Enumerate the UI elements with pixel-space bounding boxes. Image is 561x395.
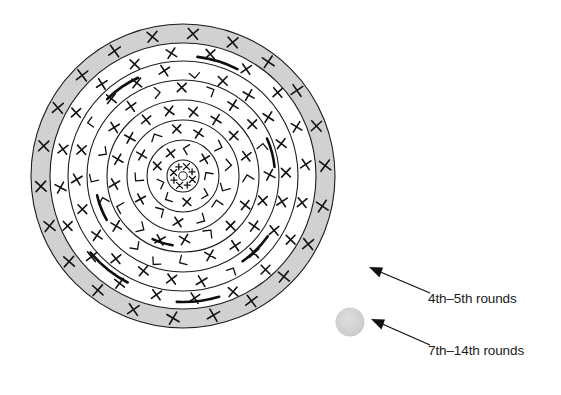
legend: 4th–5th rounds 7th–14th rounds <box>336 267 525 358</box>
x-mark <box>263 112 273 122</box>
x-mark <box>258 196 267 205</box>
x-mark <box>183 198 191 206</box>
corner-mark <box>154 208 164 218</box>
x-mark <box>249 221 259 231</box>
x-mark <box>111 254 121 264</box>
x-mark <box>243 90 254 101</box>
x-mark <box>291 122 302 133</box>
corner-mark <box>135 172 144 181</box>
x-mark <box>194 129 203 138</box>
legend-label-4th-5th: 4th–5th rounds <box>428 291 517 306</box>
legend-arrow-line-1 <box>378 271 430 293</box>
ring-4-circle <box>107 100 259 252</box>
corner-mark <box>152 134 162 144</box>
corner-mark <box>98 147 107 156</box>
x-mark <box>281 168 290 177</box>
corner-mark <box>198 189 208 199</box>
x-mark <box>248 120 257 129</box>
x-mark <box>228 100 238 110</box>
x-mark <box>63 221 72 230</box>
x-mark <box>286 235 295 244</box>
figure-root: 4th–5th rounds 7th–14th rounds <box>0 0 561 395</box>
corner-mark <box>130 241 139 250</box>
corner-mark <box>212 200 223 211</box>
x-mark <box>164 106 173 115</box>
legend-arrow-line-2 <box>380 323 430 345</box>
corner-mark <box>243 175 254 186</box>
legend-item-7th-14th[interactable]: 7th–14th rounds <box>336 308 525 359</box>
corner-mark <box>183 145 193 155</box>
x-mark <box>218 76 227 85</box>
x-mark <box>109 179 119 189</box>
x-mark <box>167 274 177 284</box>
legend-arrow-head-2 <box>371 319 385 330</box>
x-mark <box>189 176 195 182</box>
x-mark <box>142 115 151 124</box>
x-mark <box>273 88 282 97</box>
corner-mark <box>180 255 189 264</box>
corner-mark <box>220 159 231 170</box>
x-mark <box>137 150 147 160</box>
x-mark <box>159 66 169 76</box>
x-mark <box>71 108 80 117</box>
x-mark <box>71 174 82 185</box>
x-mark <box>277 196 287 206</box>
x-mark <box>230 241 240 251</box>
x-mark <box>264 169 275 180</box>
x-mark <box>55 182 66 193</box>
x-mark <box>276 139 286 149</box>
corner-mark <box>88 117 98 127</box>
corner-mark <box>90 173 99 182</box>
corner-mark <box>189 68 199 78</box>
corner-mark <box>204 87 214 97</box>
x-mark <box>196 276 207 287</box>
arc-stroke <box>107 78 138 99</box>
x-mark <box>189 107 198 116</box>
corner-mark <box>211 140 222 151</box>
corner-mark <box>203 230 212 239</box>
x-mark <box>136 194 146 204</box>
x-mark <box>58 144 68 154</box>
x-mark <box>173 217 183 227</box>
x-mark <box>153 162 161 170</box>
x-mark <box>109 122 119 132</box>
x-mark <box>177 83 186 92</box>
corner-mark <box>149 88 160 99</box>
x-mark <box>111 221 121 231</box>
ring-diagram-svg: 4th–5th rounds 7th–14th rounds <box>0 0 561 395</box>
center-hub <box>179 172 187 180</box>
x-mark <box>183 164 189 170</box>
legend-item-4th-5th[interactable]: 4th–5th rounds <box>369 267 517 306</box>
x-mark <box>228 287 237 296</box>
corner-mark <box>257 144 268 155</box>
legend-gray-dot-marker <box>336 308 365 337</box>
x-mark <box>226 221 234 229</box>
x-mark <box>241 200 250 209</box>
ring-5-circle <box>127 120 239 232</box>
x-mark <box>173 125 181 133</box>
x-mark <box>301 159 311 169</box>
x-mark <box>180 234 190 244</box>
corner-mark <box>134 222 144 232</box>
x-mark <box>211 115 221 125</box>
corner-mark <box>153 256 161 264</box>
x-mark <box>130 60 139 69</box>
corner-mark <box>154 179 164 189</box>
x-mark <box>166 48 176 58</box>
x-mark <box>78 205 87 214</box>
legend-arrow-head-1 <box>369 267 383 278</box>
center-circle <box>167 160 199 192</box>
x-mark <box>139 266 149 276</box>
x-mark <box>177 182 183 188</box>
ring-2-circle <box>68 61 298 291</box>
corner-mark <box>220 181 230 191</box>
corner-mark <box>195 213 205 223</box>
x-mark <box>126 101 136 111</box>
x-mark <box>151 290 161 300</box>
x-mark <box>166 149 174 157</box>
corner-mark <box>226 268 235 277</box>
x-mark <box>97 79 108 90</box>
x-mark <box>297 198 307 208</box>
arc-stroke <box>177 297 219 302</box>
ring-6-circle <box>147 140 219 212</box>
